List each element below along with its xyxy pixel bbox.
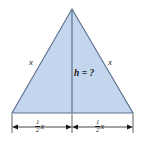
fraction-one-half-left: 1 2 [35,119,40,134]
height-label: h = ? [74,69,94,79]
fraction-numerator: 1 [35,119,39,126]
fraction-variable: x [41,122,45,131]
triangle-diagram-canvas [0,0,143,141]
side-length-label-right: x [108,58,112,67]
arrowhead-left-inner [66,125,72,130]
fraction-one-half-right: 1 2 [95,119,100,134]
fraction-denominator: 2 [35,127,39,134]
arrowhead-right-outer [127,125,133,130]
fraction-numerator: 1 [95,119,99,126]
fraction-denominator: 2 [95,127,99,134]
arrowhead-left-outer [12,125,18,130]
fraction-variable: x [101,122,105,131]
base-segment-label-left: 1 2 x [35,119,44,134]
base-segment-label-right: 1 2 x [95,119,104,134]
triangle-figure: x x h = ? 1 2 x 1 2 x [0,0,143,141]
side-length-label-left: x [29,58,33,67]
arrowhead-right-inner [72,125,78,130]
